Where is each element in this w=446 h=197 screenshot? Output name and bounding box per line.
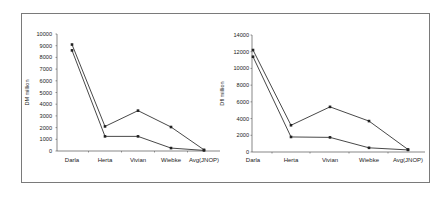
data-point-marker bbox=[252, 49, 255, 52]
y-tick-label: 9000 bbox=[40, 43, 52, 49]
x-tick-label: Wiebke bbox=[161, 157, 182, 163]
data-point-marker bbox=[290, 124, 293, 127]
y-tick-label: 5000 bbox=[40, 90, 52, 96]
y-axis-label: DM million bbox=[24, 79, 30, 105]
x-tick-label: Vivian bbox=[322, 157, 338, 163]
data-point-marker bbox=[71, 49, 74, 52]
y-axis-label: Dfl million bbox=[219, 81, 225, 105]
x-tick-label: Herta bbox=[284, 157, 299, 163]
y-tick-label: 7000 bbox=[40, 66, 52, 72]
data-point-marker bbox=[290, 136, 293, 139]
x-tick-label: Wiebke bbox=[359, 157, 380, 163]
y-tick-label: 4000 bbox=[40, 101, 52, 107]
y-tick-label: 0 bbox=[49, 148, 52, 154]
data-point-marker bbox=[104, 135, 107, 138]
y-tick-label: 4000 bbox=[237, 116, 249, 122]
data-point-marker bbox=[368, 147, 371, 150]
data-point-marker bbox=[329, 106, 332, 109]
data-point-marker bbox=[170, 147, 173, 150]
x-tick-label: Avg(JNOP) bbox=[189, 157, 219, 163]
series-line bbox=[72, 45, 204, 150]
x-tick-label: Avg(JNOP) bbox=[393, 157, 423, 163]
data-point-marker bbox=[170, 126, 173, 129]
x-tick-label: Darla bbox=[246, 157, 261, 163]
x-tick-label: Vivian bbox=[130, 157, 146, 163]
data-point-marker bbox=[137, 109, 140, 112]
y-tick-label: 6000 bbox=[40, 78, 52, 84]
data-point-marker bbox=[329, 136, 332, 139]
y-tick-label: 14000 bbox=[233, 32, 249, 38]
y-tick-label: 8000 bbox=[40, 54, 52, 60]
data-point-marker bbox=[104, 125, 107, 128]
data-point-marker bbox=[203, 149, 206, 152]
chart-dfl: 02000400060008000100001200014000DarlaHer… bbox=[219, 32, 425, 163]
series-line bbox=[253, 50, 408, 149]
series-line bbox=[253, 57, 408, 150]
data-point-marker bbox=[137, 135, 140, 138]
charts-canvas: 0100020003000400050006000700080009000100… bbox=[0, 0, 446, 197]
y-tick-label: 10000 bbox=[233, 65, 249, 71]
y-tick-label: 3000 bbox=[40, 113, 52, 119]
data-point-marker bbox=[407, 149, 410, 152]
y-tick-label: 2000 bbox=[40, 125, 52, 131]
y-tick-label: 1000 bbox=[40, 136, 52, 142]
data-point-marker bbox=[368, 120, 371, 123]
x-tick-label: Herta bbox=[98, 157, 113, 163]
y-tick-label: 12000 bbox=[233, 49, 249, 55]
y-tick-label: 0 bbox=[246, 149, 249, 155]
y-tick-label: 10000 bbox=[36, 31, 52, 37]
y-tick-label: 6000 bbox=[237, 99, 249, 105]
y-tick-label: 2000 bbox=[237, 132, 249, 138]
x-tick-label: Darla bbox=[65, 157, 80, 163]
chart-dm: 0100020003000400050006000700080009000100… bbox=[24, 31, 220, 163]
data-point-marker bbox=[71, 43, 74, 46]
y-tick-label: 8000 bbox=[237, 82, 249, 88]
data-point-marker bbox=[252, 55, 255, 58]
